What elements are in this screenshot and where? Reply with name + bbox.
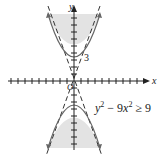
vertex-label: 3 (84, 53, 89, 63)
graph-canvas (0, 0, 159, 161)
y-axis-label: y (69, 2, 73, 12)
origin-label: O (67, 83, 74, 92)
ineq-rel: ≥ 9 (132, 101, 151, 115)
ineq-minus: − 9 (104, 101, 123, 115)
x-axis-arrow-icon (143, 78, 150, 84)
x-axis-label: x (152, 76, 156, 86)
inequality-label: y2 − 9x2 ≥ 9 (95, 100, 151, 116)
hyperbola-figure: y x O 3 y2 − 9x2 ≥ 9 (0, 0, 159, 161)
